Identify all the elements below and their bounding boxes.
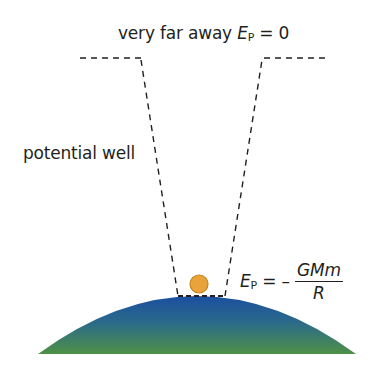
fraction: GMmR xyxy=(295,260,343,303)
far-away-text: very far away xyxy=(118,23,237,43)
ep-subscript: P xyxy=(251,279,257,292)
equals-minus: = – xyxy=(257,271,295,291)
numerator: GMm xyxy=(295,260,343,282)
potential-well-label: potential well xyxy=(23,143,135,163)
ep-symbol: E xyxy=(237,23,248,43)
diagram-canvas xyxy=(0,0,371,377)
denominator: R xyxy=(295,282,343,303)
far-away-label: very far away EP = 0 xyxy=(118,23,289,43)
surface-energy-formula: EP = – GMmR xyxy=(240,260,343,303)
planet-surface xyxy=(38,296,356,354)
ep-symbol: E xyxy=(240,271,251,291)
ep-subscript: P xyxy=(248,31,254,44)
left-well-wall xyxy=(141,60,178,296)
mass-ball xyxy=(190,275,208,293)
ep-zero-value: = 0 xyxy=(254,23,289,43)
